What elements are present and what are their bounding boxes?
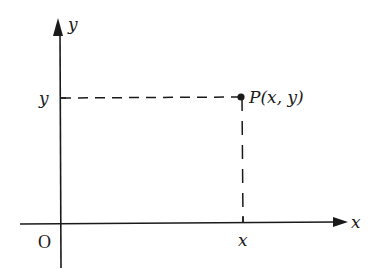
y-tick-label: y xyxy=(38,88,49,108)
coordinate-diagram: y x O y x P(x, y) xyxy=(0,0,378,274)
y-axis-label: y xyxy=(67,14,78,34)
x-tick-label: x xyxy=(238,230,248,250)
y-axis-arrow-icon xyxy=(53,18,63,36)
horizontal-projection-line xyxy=(61,97,240,98)
y-axis xyxy=(53,18,63,268)
x-axis-arrow-icon xyxy=(333,217,348,227)
point-p-label: P(x, y) xyxy=(248,87,304,107)
point-p-marker xyxy=(237,93,244,100)
origin-label: O xyxy=(38,232,51,252)
x-axis xyxy=(20,217,348,227)
vertical-projection-line xyxy=(242,97,243,222)
x-axis-label: x xyxy=(351,212,361,232)
